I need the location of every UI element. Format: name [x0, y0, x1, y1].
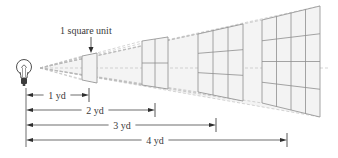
arrow-right-icon: [148, 108, 155, 112]
arrow-right-icon: [280, 138, 287, 142]
grid-2-yd: [142, 37, 168, 89]
dimension-label: 2 yd: [86, 105, 104, 116]
grid-1-yd: [82, 53, 97, 83]
arrow-left-icon: [26, 138, 33, 142]
inverse-square-diagram: 1 square unit 1 yd2 yd3 yd4 yd: [0, 0, 338, 158]
lightbulb-icon: [17, 60, 32, 87]
arrow-right-icon: [82, 93, 89, 97]
grid-3-yd: [198, 24, 243, 101]
arrow-right-icon: [209, 123, 216, 127]
grid-4-yd: [262, 6, 320, 117]
arrow-left-icon: [26, 108, 33, 112]
dimension-4-yd: 4 yd: [26, 133, 287, 147]
square-unit-callout: 1 square unit: [60, 25, 112, 53]
arrow-left-icon: [26, 123, 33, 127]
arrow-left-icon: [26, 93, 33, 97]
pointer-arrow-icon: [89, 47, 94, 53]
square-unit-label: 1 square unit: [60, 25, 112, 36]
dimension-label: 1 yd: [48, 90, 66, 101]
dimension-2-yd: 2 yd: [26, 103, 155, 117]
dimension-label: 3 yd: [113, 120, 131, 131]
dimension-3-yd: 3 yd: [26, 118, 216, 132]
dimension-label: 4 yd: [146, 135, 164, 146]
dimension-1-yd: 1 yd: [26, 88, 89, 102]
